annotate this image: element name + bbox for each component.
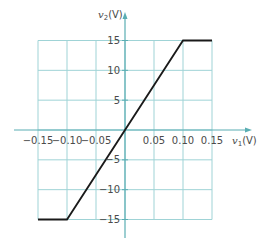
x-axis-arrow-icon (245, 128, 252, 133)
axis-labels: v2(V)v1(V) (98, 9, 257, 148)
transfer-characteristic-chart: −0.15−0.10−0.050.050.100.1515105−5−10−15… (0, 0, 266, 245)
x-tick-label: 0.05 (143, 135, 165, 146)
x-tick-label: −0.15 (23, 135, 54, 146)
x-tick-label: 0.15 (201, 135, 223, 146)
y-tick-label: −5 (105, 154, 120, 165)
y-tick-label: 15 (107, 35, 120, 46)
y-tick-label: −10 (99, 184, 120, 195)
axes (14, 12, 252, 238)
y-tick-label: 5 (114, 95, 120, 106)
y-axis-label: v2(V) (98, 9, 123, 22)
x-axis-label: v1(V) (232, 135, 257, 148)
x-tick-label: −0.10 (52, 135, 83, 146)
y-axis-arrow-icon (123, 12, 128, 19)
x-tick-label: 0.10 (172, 135, 194, 146)
y-tick-label: 10 (107, 65, 120, 76)
y-tick-label: −15 (99, 214, 120, 225)
x-tick-label: −0.05 (81, 135, 112, 146)
